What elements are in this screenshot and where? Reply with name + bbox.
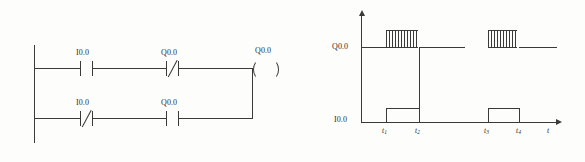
q00-baseline-seg-1	[361, 47, 386, 48]
rung-2-contact-no	[166, 111, 179, 126]
x-axis-label: t	[547, 126, 549, 135]
tick-subscript: 1	[384, 129, 387, 135]
rung-1-contact-no	[80, 61, 93, 76]
coil-arc-right	[266, 60, 279, 79]
i00-fall-t2	[419, 108, 420, 123]
waveform-label-q00: Q0.0	[332, 42, 348, 51]
q00-pulse-burst-2	[488, 30, 519, 48]
rung-1-contact-nc-label: Q0.0	[161, 48, 177, 57]
rung-1-contact-no-label: I0.0	[76, 48, 89, 57]
rung-1-wire-c	[179, 68, 253, 69]
rung-1-output-coil	[253, 60, 279, 77]
contact-bar-left	[166, 111, 167, 126]
ladder-diagram: I0.0 Q0.0 Q0.0 I0.0 Q0.0	[0, 0, 292, 162]
rung-2-wire-c	[179, 118, 253, 119]
q00-baseline-seg-2	[419, 47, 465, 48]
left-power-rail	[34, 45, 35, 143]
x-axis-arrow-icon	[556, 119, 562, 125]
x-tick-label-t2: t2	[415, 126, 420, 137]
i00-high-2	[488, 108, 520, 109]
x-tick-label-t1: t1	[382, 126, 387, 137]
i00-rise-t3	[488, 108, 489, 123]
i00-fall-t4	[519, 108, 520, 123]
rung-1-coil-label: Q0.0	[255, 46, 271, 55]
tick-subscript: 2	[417, 129, 420, 135]
rung-2-contact-nc-label: I0.0	[76, 98, 89, 107]
rung-2-wire-b	[93, 118, 166, 119]
rung-1-wire-b	[93, 68, 166, 69]
waveform-label-i00: I0.0	[334, 115, 347, 124]
i00-rise-t1	[386, 108, 387, 123]
x-tick-label-t3: t3	[484, 126, 489, 137]
q00-baseline-seg-3	[519, 47, 557, 48]
tick-subscript: 3	[486, 129, 489, 135]
q00-pulse-burst-1	[386, 30, 419, 48]
y-axis	[361, 16, 362, 123]
i00-high-1	[386, 108, 420, 109]
branch-riser	[252, 68, 253, 119]
coil-arc-left	[253, 60, 266, 79]
rung-1-contact-nc	[166, 61, 179, 76]
burst-top-rail	[386, 30, 418, 31]
burst-bottom-rail	[386, 47, 418, 48]
y-axis-arrow-icon	[359, 10, 365, 16]
rung-1-wire-a	[34, 68, 80, 69]
rung-2-contact-nc	[80, 111, 93, 126]
burst-top-rail	[488, 30, 517, 31]
plc-ladder-and-timing-figure: I0.0 Q0.0 Q0.0 I0.0 Q0.0	[0, 0, 585, 162]
contact-nc-slash	[167, 60, 178, 77]
rung-2-wire-a	[34, 118, 80, 119]
timing-diagram: t Q0.0	[292, 0, 585, 162]
contact-bar-left	[80, 61, 81, 76]
x-axis	[361, 122, 557, 123]
tick-subscript: 4	[518, 129, 521, 135]
contact-nc-slash	[81, 110, 92, 127]
burst-bottom-rail	[488, 47, 517, 48]
x-tick-label-t4: t4	[516, 126, 521, 137]
rung-2-contact-no-label: Q0.0	[161, 98, 177, 107]
